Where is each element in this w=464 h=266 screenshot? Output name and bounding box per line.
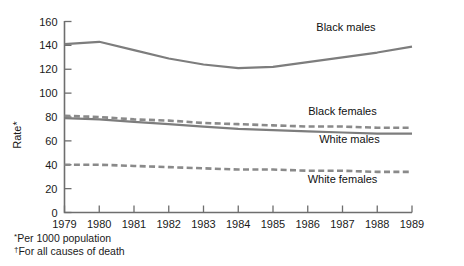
x-axis-ticks [65, 206, 413, 213]
x-tick-label: 1985 [261, 218, 285, 230]
x-tick-label: 1983 [191, 218, 215, 230]
series-line-black-females [65, 116, 413, 128]
x-axis-tick-labels: 1979198019811982198319841985198619871988… [52, 218, 424, 230]
series-line-white-females [65, 165, 413, 172]
series-annotations: Black malesBlack femalesWhite malesWhite… [308, 21, 381, 185]
footnote-text-2: For all causes of death [18, 245, 124, 257]
y-tick-label: 100 [39, 87, 57, 99]
chart-figure: Rate* 020406080100120140160 197919801981… [0, 0, 464, 266]
y-axis-title-group: Rate* [11, 121, 23, 149]
y-tick-label: 40 [45, 159, 57, 171]
footnote-2: †For all causes of death [14, 245, 125, 257]
y-tick-label: 80 [45, 111, 57, 123]
series-annotation-black-females: Black females [308, 105, 377, 117]
footnote-1: *Per 1000 population [14, 232, 111, 244]
x-tick-label: 1984 [226, 218, 250, 230]
series-line-black-males [65, 42, 413, 68]
footnotes: *Per 1000 population†For all causes of d… [14, 232, 125, 257]
y-axis-tick-labels: 020406080100120140160 [39, 16, 57, 219]
footnote-text-1: Per 1000 population [17, 232, 111, 244]
series-annotation-white-males: White males [319, 133, 380, 145]
x-tick-label: 1989 [400, 218, 424, 230]
y-tick-label: 160 [39, 16, 57, 28]
y-axis-title: Rate* [11, 121, 23, 149]
x-tick-label: 1980 [87, 218, 111, 230]
x-tick-label: 1987 [330, 218, 354, 230]
x-tick-label: 1988 [365, 218, 389, 230]
y-tick-label: 140 [39, 39, 57, 51]
series-annotation-black-males: Black males [316, 21, 376, 33]
y-tick-label: 120 [39, 63, 57, 75]
x-tick-label: 1986 [296, 218, 320, 230]
x-tick-label: 1979 [52, 218, 76, 230]
y-tick-label: 20 [45, 183, 57, 195]
series-annotation-white-females: White females [308, 173, 378, 185]
mortality-rate-line-chart: Rate* 020406080100120140160 197919801981… [0, 0, 464, 266]
x-tick-label: 1982 [157, 218, 181, 230]
x-tick-label: 1981 [122, 218, 146, 230]
y-tick-label: 60 [45, 135, 57, 147]
